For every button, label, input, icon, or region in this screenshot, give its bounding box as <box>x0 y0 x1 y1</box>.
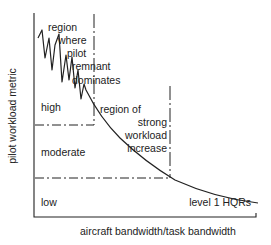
diagram-canvas <box>0 0 271 245</box>
x-axis-label: aircraft bandwidth/task bandwidth <box>80 225 236 237</box>
y-axis-label: pilot workload metric <box>6 68 18 164</box>
level-moderate-label: moderate <box>41 146 85 158</box>
strong-increase-label-line4: increase <box>127 142 167 154</box>
remnant-region-label-line4: remnant <box>72 60 111 72</box>
level-low-label: low <box>41 196 57 208</box>
remnant-region-label-line1: region <box>48 21 77 33</box>
workload-diagram: pilot workload metric region where pilot… <box>0 0 271 245</box>
strong-increase-label-line3: workload <box>125 129 167 141</box>
remnant-region-label-line3: pilot <box>67 47 86 59</box>
strong-increase-label-line2: strong <box>138 116 167 128</box>
remnant-region-label-line5: dominates <box>72 74 120 86</box>
level1-hqr-label: level 1 HQRs <box>189 196 251 208</box>
strong-increase-label-line1: region of <box>100 103 141 115</box>
remnant-region-label-line2: where <box>58 34 87 46</box>
level-high-label: high <box>41 101 61 113</box>
